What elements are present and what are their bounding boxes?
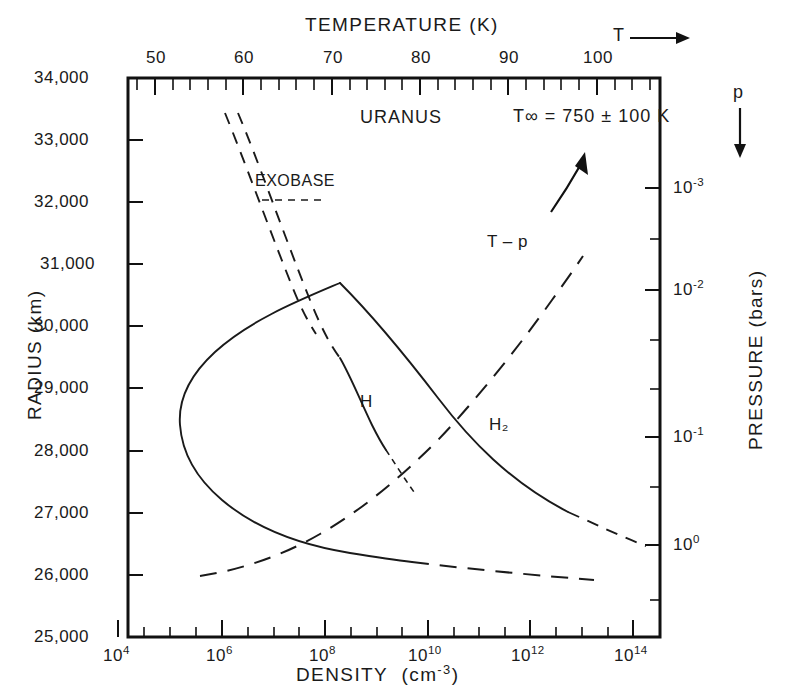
bottom-axis-ticks bbox=[118, 620, 633, 637]
curve-tp-dashed bbox=[200, 256, 583, 576]
curve-h2-upper-dashed bbox=[568, 512, 646, 546]
left-tick-label-26000: 26,000 bbox=[34, 565, 89, 585]
left-tick-label-31000: 31,000 bbox=[40, 254, 95, 274]
curve-h2-lower-dashed bbox=[412, 562, 594, 580]
bottom-tick-label-1e14: 1014 bbox=[614, 644, 648, 666]
pressure-direction-arrow-head bbox=[734, 144, 746, 158]
curve-h2-upper-solid bbox=[340, 283, 568, 512]
temperature-direction-arrow-head bbox=[676, 32, 690, 44]
top-tick-label-80: 80 bbox=[411, 48, 431, 68]
right-tick-label-1e-2: 10-2 bbox=[673, 278, 704, 300]
planet-name-label: URANUS bbox=[360, 107, 442, 128]
bottom-tick-label-1e6: 106 bbox=[206, 644, 233, 666]
right-axis-title: PRESSURE (bars) bbox=[745, 270, 767, 450]
temperature-direction-label: T bbox=[613, 25, 625, 46]
top-axis-title: TEMPERATURE (K) bbox=[305, 14, 499, 36]
left-tick-label-25000: 25,000 bbox=[34, 627, 89, 647]
exobase-label: EXOBASE bbox=[255, 172, 335, 190]
h2-curve-label: H₂ bbox=[489, 415, 509, 435]
top-tick-label-100: 100 bbox=[583, 48, 613, 68]
curve-h-upper-dashed bbox=[238, 113, 340, 358]
top-tick-label-60: 60 bbox=[234, 48, 254, 68]
curve-h2-solid bbox=[180, 283, 412, 562]
left-tick-label-32000: 32,000 bbox=[34, 192, 89, 212]
left-axis-title: RADIUS (km) bbox=[24, 290, 46, 420]
bottom-axis-title: DENSITY (cm-3) bbox=[296, 662, 459, 686]
right-tick-label-1e-3: 10-3 bbox=[673, 176, 704, 198]
pressure-direction-label: p bbox=[733, 82, 744, 103]
exospheric-temperature-label: T∞ = 750 ± 100 K bbox=[513, 106, 670, 127]
top-tick-label-90: 90 bbox=[499, 48, 519, 68]
top-tick-label-50: 50 bbox=[146, 48, 166, 68]
curve-tp-upper-dashed bbox=[225, 113, 316, 334]
tp-arrow-line bbox=[551, 164, 581, 212]
tp-curve-label: T – p bbox=[487, 232, 528, 252]
top-axis-ticks bbox=[137, 78, 650, 95]
right-tick-label-1e-1: 10-1 bbox=[673, 425, 704, 447]
h-curve-label: H bbox=[360, 392, 373, 412]
bottom-tick-label-1e4: 104 bbox=[103, 644, 130, 666]
left-tick-label-28000: 28,000 bbox=[34, 441, 89, 461]
left-axis-ticks bbox=[128, 140, 143, 575]
top-tick-label-70: 70 bbox=[323, 48, 343, 68]
bottom-tick-label-1e12: 1012 bbox=[511, 644, 545, 666]
right-axis-ticks bbox=[645, 188, 660, 600]
left-tick-label-27000: 27,000 bbox=[34, 503, 89, 523]
left-tick-label-34000: 34,000 bbox=[34, 68, 89, 88]
right-tick-label-1e0: 100 bbox=[673, 533, 700, 555]
curve-h-lower-dashed bbox=[386, 450, 414, 492]
left-tick-label-33000: 33,000 bbox=[34, 130, 89, 150]
